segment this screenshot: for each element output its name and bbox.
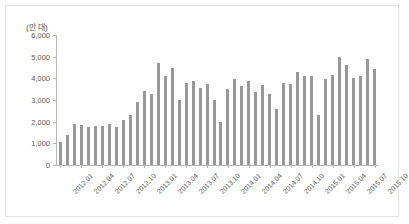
bar	[352, 78, 355, 165]
y-axis-tick-label: 4,000	[31, 74, 53, 83]
x-axis-tick-mark	[333, 165, 334, 168]
x-axis-tick-label: 2012.04	[93, 172, 116, 195]
x-axis-tick-label: 2015.10	[386, 172, 409, 195]
x-axis-tick-label: 2013.07	[198, 172, 221, 195]
bar	[115, 127, 118, 165]
bar	[247, 81, 250, 166]
x-axis-tick-label: 2013.04	[177, 172, 200, 195]
bar	[150, 94, 153, 166]
bar	[268, 94, 271, 166]
x-axis-tick-mark	[186, 165, 187, 168]
x-axis-tick-label: 2014.04	[260, 172, 283, 195]
x-axis-tick-mark	[291, 165, 292, 168]
bar	[359, 76, 362, 165]
x-axis-tick-label: 2015.01	[323, 172, 346, 195]
x-axis-tick-label: 2013.01	[156, 172, 179, 195]
y-axis-tick-label: 1,000	[31, 139, 53, 148]
x-axis-tick-label: 2012.07	[114, 172, 137, 195]
bar	[192, 81, 195, 166]
bar	[171, 68, 174, 166]
bar	[317, 115, 320, 165]
bar	[366, 59, 369, 165]
bar	[87, 127, 90, 165]
bar	[73, 124, 76, 165]
bar	[310, 76, 313, 165]
x-axis-tick-mark	[312, 165, 313, 168]
bar	[66, 135, 69, 165]
bar-series	[57, 35, 378, 165]
bar	[338, 57, 341, 165]
bar	[282, 83, 285, 165]
y-axis-tick-labels: 01,0002,0003,0004,0005,0006,000	[16, 0, 53, 224]
bar	[94, 126, 97, 165]
bar	[101, 126, 104, 165]
bar	[233, 79, 236, 165]
bar	[345, 65, 348, 165]
x-axis-tick-marks	[57, 165, 378, 170]
y-axis-tick-label: 5,000	[31, 52, 53, 61]
x-axis-tick-label: 2015.04	[344, 172, 367, 195]
bar	[275, 109, 278, 165]
bar	[219, 122, 222, 165]
bar	[80, 125, 83, 165]
bar	[206, 84, 209, 165]
bar	[178, 100, 181, 165]
x-axis-tick-mark	[165, 165, 166, 168]
bar	[122, 120, 125, 166]
y-axis-tick-label: 3,000	[31, 96, 53, 105]
bar	[157, 63, 160, 165]
bar	[108, 124, 111, 165]
y-axis-tick-label: 2,000	[31, 117, 53, 126]
bar	[164, 76, 167, 165]
bar	[59, 142, 62, 165]
x-axis-tick-mark	[102, 165, 103, 168]
bar	[129, 115, 132, 165]
bar	[261, 85, 264, 165]
x-axis-tick-mark	[207, 165, 208, 168]
x-axis-tick-label: 2014.10	[302, 172, 325, 195]
bar	[226, 89, 229, 165]
bar	[331, 75, 334, 165]
bar	[136, 102, 139, 165]
x-axis-tick-mark	[270, 165, 271, 168]
x-axis-tick-label: 2014.01	[239, 172, 262, 195]
x-axis-tick-label: 2014.07	[281, 172, 304, 195]
x-axis-tick-label: 2012.10	[135, 172, 158, 195]
y-axis-tick-label: 0	[46, 161, 53, 170]
bar	[213, 100, 216, 165]
bar	[143, 91, 146, 165]
x-axis-tick-mark	[60, 165, 61, 168]
x-axis-tick-mark	[123, 165, 124, 168]
x-axis-tick-mark	[228, 165, 229, 168]
x-axis-tick-mark	[354, 165, 355, 168]
bar	[296, 72, 299, 165]
x-axis-tick-mark	[144, 165, 145, 168]
x-axis-tick-label: 2012.01	[72, 172, 95, 195]
x-axis-tick-mark	[81, 165, 82, 168]
y-axis-tick-label: 6,000	[31, 31, 53, 40]
bar	[254, 92, 257, 165]
x-axis-tick-mark	[249, 165, 250, 168]
x-axis-tick-label: 2013.10	[218, 172, 241, 195]
x-axis-tick-label: 2015.07	[365, 172, 388, 195]
bar	[185, 83, 188, 165]
x-axis-tick-mark	[375, 165, 376, 168]
bar	[324, 79, 327, 165]
bar	[199, 88, 202, 165]
bar	[303, 76, 306, 165]
bar	[240, 86, 243, 165]
bar	[289, 84, 292, 165]
bar	[373, 69, 376, 165]
